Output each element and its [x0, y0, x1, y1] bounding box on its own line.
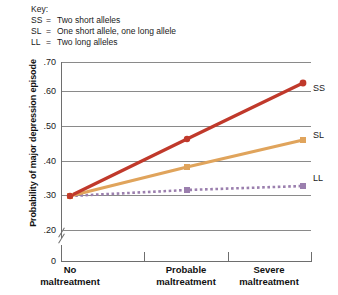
- x-tick-0: [61, 252, 62, 262]
- x-label-line2-1: maltreatment: [156, 276, 216, 287]
- series-label-ll: LL: [313, 174, 323, 183]
- marker-sl-2: [184, 164, 190, 170]
- series-lines: [0, 0, 338, 295]
- x-label-line1-1: Probable: [166, 264, 207, 275]
- marker-ss-1: [67, 193, 73, 199]
- series-label-ss: SS: [313, 84, 325, 93]
- marker-ll-2: [184, 187, 190, 193]
- x-tick-3: [311, 252, 312, 262]
- x-label-line2-2: maltreatment: [239, 276, 299, 287]
- x-axis-label-no-maltreatment: No maltreatment: [22, 264, 118, 287]
- x-axis-label-severe-maltreatment: Severe maltreatment: [221, 264, 317, 287]
- x-label-line1-0: No: [64, 264, 77, 275]
- x-label-line1-2: Severe: [253, 264, 284, 275]
- marker-ss-3: [300, 80, 307, 87]
- x-label-line2-0: maltreatment: [40, 276, 100, 287]
- marker-ll-3: [300, 183, 306, 189]
- series-label-sl: SL: [313, 131, 324, 140]
- x-tick-2: [228, 252, 229, 262]
- x-tick-1: [144, 252, 145, 262]
- marker-sl-3: [300, 137, 306, 143]
- marker-ss-2: [184, 136, 190, 142]
- x-axis-label-probable-maltreatment: Probable maltreatment: [138, 264, 234, 287]
